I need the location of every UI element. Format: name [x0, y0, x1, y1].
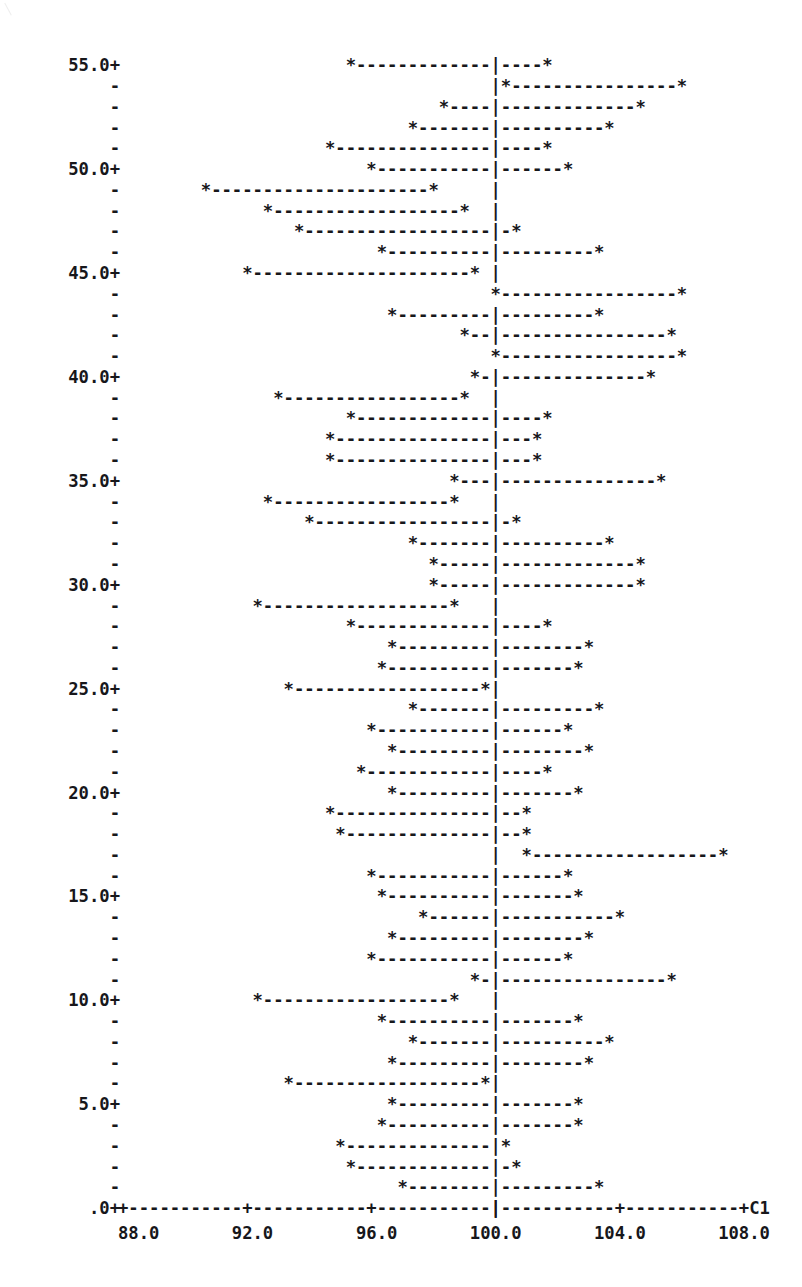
interval-rows: *-------------|----* |*----------------*…: [118, 55, 729, 1219]
y-axis: 55.0+ - - - - 50.0+ - - - - 45.0+ - - - …: [24, 55, 120, 1219]
x-axis-ruler: +-----------+-----------+-----------|---…: [118, 1198, 770, 1219]
scan-artifact: [4, 0, 34, 16]
x-axis-labels: 88.0 92.0 96.0 100.0 104.0 108.0: [118, 1223, 770, 1244]
character-plot-figure: 55.0+ - - - - 50.0+ - - - - 45.0+ - - - …: [0, 0, 802, 1287]
